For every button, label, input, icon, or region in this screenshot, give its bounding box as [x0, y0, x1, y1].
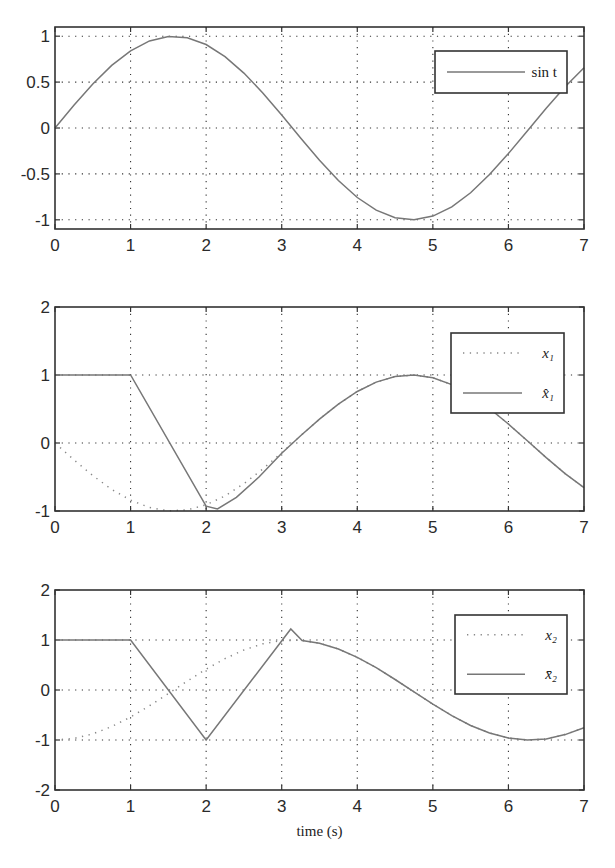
x-tick-label: 3 [277, 797, 286, 816]
y-tick-label: 0 [41, 681, 50, 700]
chart-panel-1: 01234567-1-0.500.51sin t [21, 27, 589, 255]
x-tick-label: 6 [504, 518, 513, 537]
legend-label: x₂ [544, 627, 557, 643]
legend-label: x̂₁ [541, 385, 554, 401]
legend: sin t [435, 51, 567, 93]
chart-panel-3: 01234567-2-1012time (s)x₂x̄₂ [35, 581, 589, 840]
y-tick-label: 2 [41, 298, 50, 317]
legend: x₁x̂₁ [451, 333, 564, 413]
x-tick-label: 7 [579, 236, 588, 255]
legend-label: x₁ [541, 345, 554, 361]
y-tick-label: -1 [35, 211, 50, 230]
x-tick-label: 0 [50, 797, 59, 816]
x-tick-label: 0 [50, 236, 59, 255]
x-tick-label: 2 [201, 518, 210, 537]
y-tick-label: 1 [41, 27, 50, 46]
y-tick-label: 1 [41, 366, 50, 385]
figure: 01234567-1-0.500.51sin t01234567-1012x₁x… [0, 0, 615, 868]
x-tick-label: 1 [126, 518, 135, 537]
x-tick-label: 4 [353, 518, 362, 537]
x-tick-label: 4 [353, 797, 362, 816]
x-tick-label: 7 [579, 797, 588, 816]
x-tick-label: 2 [201, 236, 210, 255]
y-tick-label: 0.5 [26, 73, 50, 92]
x-tick-label: 2 [201, 797, 210, 816]
x-tick-label: 1 [126, 236, 135, 255]
legend: x₂x̄₂ [455, 615, 567, 694]
y-tick-label: 0 [41, 119, 50, 138]
x-axis-label: time (s) [296, 823, 342, 840]
y-tick-label: 2 [41, 581, 50, 600]
x-tick-label: 5 [428, 518, 437, 537]
y-tick-label: -0.5 [21, 165, 50, 184]
x-tick-label: 3 [277, 236, 286, 255]
y-tick-label: 1 [41, 631, 50, 650]
x-tick-label: 4 [353, 236, 362, 255]
legend-label: sin t [532, 64, 558, 80]
x-tick-label: 3 [277, 518, 286, 537]
x-tick-label: 6 [504, 797, 513, 816]
y-tick-label: -1 [35, 502, 50, 521]
x-tick-label: 7 [579, 518, 588, 537]
y-tick-label: -2 [35, 781, 50, 800]
x-tick-label: 1 [126, 797, 135, 816]
chart-panel-2: 01234567-1012x₁x̂₁ [35, 298, 589, 537]
x-tick-label: 5 [428, 797, 437, 816]
x-tick-label: 6 [504, 236, 513, 255]
y-tick-label: -1 [35, 731, 50, 750]
x-tick-label: 5 [428, 236, 437, 255]
y-tick-label: 0 [41, 434, 50, 453]
x-tick-label: 0 [50, 518, 59, 537]
legend-label: x̄₂ [544, 666, 557, 682]
